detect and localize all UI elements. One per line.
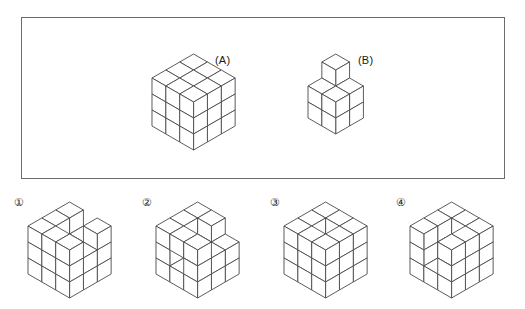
question-panel: (A) (B) — [21, 17, 505, 179]
option-3-figure — [282, 200, 369, 300]
option-2[interactable]: ② — [136, 192, 266, 309]
option-3-number: ③ — [270, 197, 280, 208]
option-4-figure — [408, 200, 495, 300]
option-2-number: ② — [142, 197, 152, 208]
option-1-number: ① — [14, 197, 24, 208]
option-2-figure — [154, 200, 241, 300]
figure-b-cube — [306, 52, 365, 136]
figure-a-cube — [150, 52, 237, 152]
option-4[interactable]: ④ — [390, 192, 520, 309]
option-1[interactable]: ① — [8, 192, 138, 309]
option-1-figure — [26, 200, 113, 300]
option-4-number: ④ — [396, 197, 406, 208]
options-row: ① ② ③ ④ — [0, 192, 525, 309]
option-3[interactable]: ③ — [264, 192, 394, 309]
